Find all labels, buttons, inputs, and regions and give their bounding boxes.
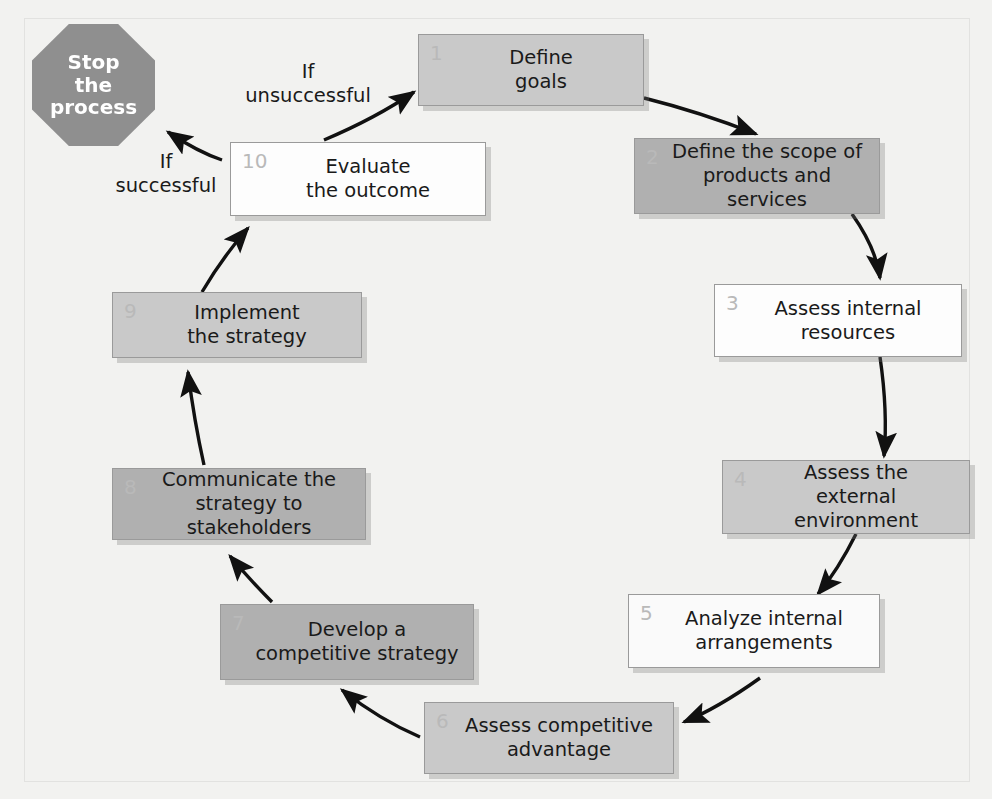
arrow-8-to-9 — [188, 372, 204, 465]
step-node-8[interactable]: 8 Communicate the strategy to stakeholde… — [112, 468, 366, 540]
if-successful-label: If successful — [92, 150, 240, 198]
step-label-2: Define the scope of products and service… — [635, 140, 879, 211]
step-label-7: Develop a competitive strategy — [227, 618, 466, 666]
step-node-3[interactable]: 3 Assess internal resources — [714, 284, 962, 357]
step-node-7[interactable]: 7 Develop a competitive strategy — [220, 604, 474, 680]
step-number-2: 2 — [646, 145, 659, 169]
step-number-6: 6 — [436, 709, 449, 733]
if-unsuccessful-label: If unsuccessful — [238, 60, 378, 108]
arrow-3-to-4 — [880, 357, 885, 456]
step-label-5: Analyze internal arrangements — [657, 607, 851, 655]
step-node-5[interactable]: 5 Analyze internal arrangements — [628, 594, 880, 668]
step-node-6[interactable]: 6 Assess competitive advantage — [424, 702, 674, 774]
arrow-9-to-10 — [202, 228, 248, 292]
step-node-4[interactable]: 4 Assess the external environment — [722, 460, 970, 534]
step-label-6: Assess competitive advantage — [437, 714, 661, 762]
step-node-1[interactable]: 1 Define goals — [418, 34, 644, 106]
step-label-8: Communicate the strategy to stakeholders — [113, 468, 365, 539]
step-number-7: 7 — [232, 611, 245, 635]
step-label-4: Assess the external environment — [723, 461, 969, 532]
stop-node-label: Stop the process — [50, 51, 137, 119]
step-node-9[interactable]: 9 Implement the strategy — [112, 292, 362, 358]
arrow-7-to-8 — [230, 556, 272, 602]
step-node-2[interactable]: 2 Define the scope of products and servi… — [634, 138, 880, 214]
step-number-3: 3 — [726, 291, 739, 315]
diagram-canvas: Stop the process If unsuccessful If succ… — [0, 0, 992, 799]
step-number-8: 8 — [124, 475, 137, 499]
arrow-4-to-5 — [818, 534, 856, 594]
step-number-1: 1 — [430, 41, 443, 65]
step-number-4: 4 — [734, 467, 747, 491]
step-label-3: Assess internal resources — [747, 297, 930, 345]
step-number-9: 9 — [124, 299, 137, 323]
arrow-1-to-2 — [644, 98, 756, 134]
step-number-5: 5 — [640, 601, 653, 625]
step-label-1: Define goals — [481, 46, 581, 94]
arrow-5-to-6 — [684, 678, 760, 722]
step-label-10: Evaluate the outcome — [278, 155, 438, 203]
arrow-6-to-7 — [342, 690, 420, 737]
step-node-10[interactable]: 10 Evaluate the outcome — [230, 142, 486, 216]
step-label-9: Implement the strategy — [159, 301, 315, 349]
arrow-2-to-3 — [852, 214, 880, 278]
arrow-layer — [0, 0, 992, 799]
step-number-10: 10 — [242, 149, 267, 173]
